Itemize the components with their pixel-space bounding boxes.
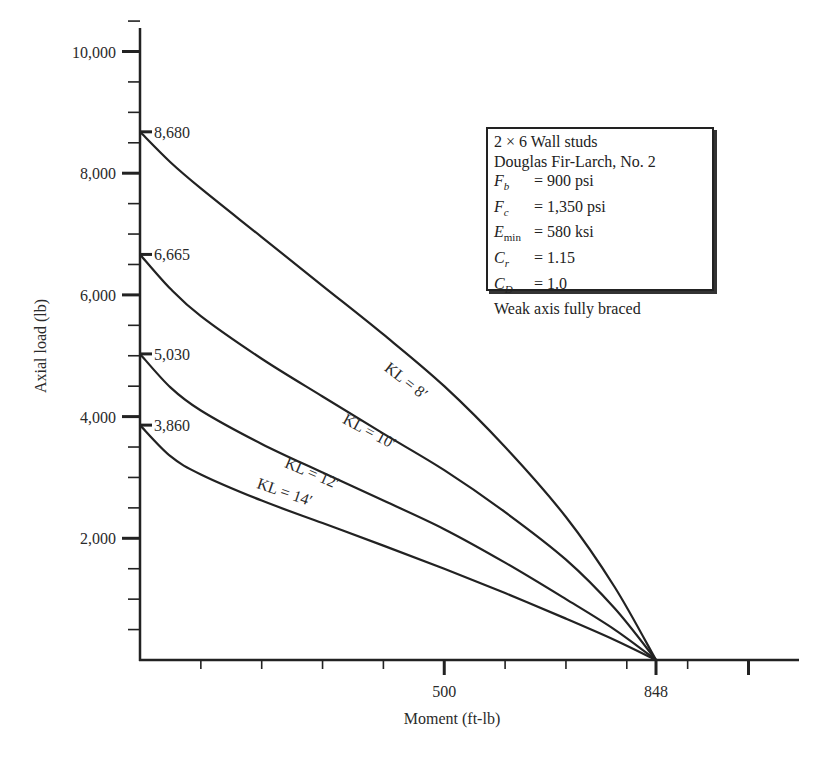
y-tick-label: 2,000 bbox=[80, 530, 116, 547]
info-box-property: CD= 1.0 bbox=[494, 274, 706, 300]
x-axis: 500848 bbox=[139, 660, 799, 700]
property-value: = 1.0 bbox=[534, 275, 567, 292]
info-box-property: Cr= 1.15 bbox=[494, 248, 706, 274]
chart-canvas: 2,0004,0006,0008,00010,000 500848 8,6806… bbox=[0, 0, 822, 758]
info-box-properties: Fb= 900 psiFc= 1,350 psiEmin= 580 ksiCr=… bbox=[494, 171, 706, 299]
info-box-species: Douglas Fir-Larch, No. 2 bbox=[494, 152, 706, 172]
info-box-property: Fb= 900 psi bbox=[494, 171, 706, 197]
curve-line bbox=[140, 425, 656, 660]
property-value: = 1,350 psi bbox=[534, 198, 606, 215]
intercept-label: 6,665 bbox=[154, 246, 190, 263]
x-tick-label: 500 bbox=[432, 683, 456, 700]
info-box-note: Weak axis fully braced bbox=[494, 299, 706, 319]
x-axis-ticks: 500848 bbox=[201, 660, 749, 700]
intercept-label: 3,860 bbox=[154, 417, 190, 434]
intercept-label: 8,680 bbox=[154, 124, 190, 141]
x-axis-title: Moment (ft-lb) bbox=[404, 710, 500, 728]
curve-line bbox=[140, 354, 656, 660]
y-tick-label: 6,000 bbox=[80, 287, 116, 304]
y-tick-label: 8,000 bbox=[80, 165, 116, 182]
y-tick-label: 10,000 bbox=[72, 44, 116, 61]
curve-label: KL = 8′ bbox=[382, 359, 431, 403]
intercept-label: 5,030 bbox=[154, 346, 190, 363]
y-tick-label: 4,000 bbox=[80, 409, 116, 426]
property-value: = 900 psi bbox=[534, 172, 594, 189]
property-symbol: CD bbox=[494, 274, 534, 300]
info-box-title: 2 × 6 Wall studs bbox=[494, 132, 706, 152]
property-value: = 580 ksi bbox=[534, 223, 594, 240]
y-axis-ticks: 2,0004,0006,0008,00010,000 bbox=[72, 21, 140, 630]
y-axis: 2,0004,0006,0008,00010,000 bbox=[72, 21, 140, 661]
property-symbol: Emin bbox=[494, 222, 534, 248]
info-box-property: Fc= 1,350 psi bbox=[494, 197, 706, 223]
curve-labels: KL = 8′KL = 10′KL = 12′KL = 14′ bbox=[255, 359, 431, 509]
curve-label: KL = 14′ bbox=[255, 474, 315, 509]
property-symbol: Cr bbox=[494, 248, 534, 274]
property-symbol: Fb bbox=[494, 171, 534, 197]
info-box-property: Emin= 580 ksi bbox=[494, 222, 706, 248]
curve-label: KL = 10′ bbox=[340, 410, 399, 452]
info-box: 2 × 6 Wall studs Douglas Fir-Larch, No. … bbox=[486, 127, 714, 291]
property-value: = 1.15 bbox=[534, 249, 575, 266]
property-symbol: Fc bbox=[494, 197, 534, 223]
y-intercept-labels: 8,6806,6655,0303,860 bbox=[140, 124, 190, 434]
x-tick-label: 848 bbox=[644, 683, 668, 700]
y-axis-title: Axial load (lb) bbox=[32, 299, 50, 393]
